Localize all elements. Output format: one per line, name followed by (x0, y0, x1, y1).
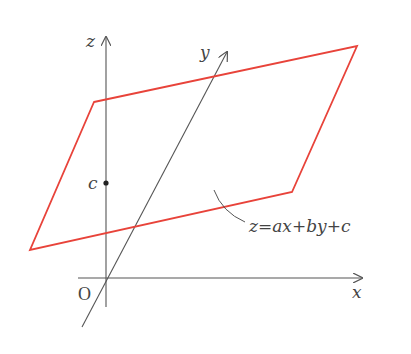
y-axis-label: y (199, 42, 210, 62)
y-axis (82, 52, 227, 327)
origin-label: O (78, 284, 91, 304)
diagram-canvas: z y x O c z=ax+by+c (0, 0, 411, 354)
plane-diagram: z y x O c z=ax+by+c (0, 0, 411, 354)
intercept-point (103, 180, 108, 185)
equation-label: z=ax+by+c (248, 216, 351, 236)
x-axis-label: x (352, 282, 362, 302)
z-axis-label: z (85, 31, 96, 51)
intercept-label: c (88, 173, 98, 193)
